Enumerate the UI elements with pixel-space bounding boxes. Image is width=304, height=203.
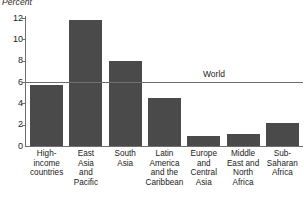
bar[interactable] [227, 134, 260, 146]
bar[interactable] [69, 20, 102, 146]
bar[interactable] [30, 85, 63, 146]
category-label-line: Saharan [260, 159, 304, 169]
category-label-line: Pacific [63, 178, 108, 188]
category-label-line: Sub- [260, 149, 304, 159]
bar-slot [145, 0, 184, 146]
world-reference-line [26, 82, 303, 83]
bar-slot [27, 0, 66, 146]
x-axis-line [25, 146, 303, 147]
category-label-line: Africa [260, 168, 304, 178]
bar[interactable] [109, 61, 142, 146]
bars-layer [0, 0, 304, 146]
x-axis-category-labels: High-incomecountriesEastAsiaandPacificSo… [0, 149, 304, 203]
x-axis-category-label: Sub-SaharanAfrica [260, 149, 304, 178]
category-label-line: and [63, 168, 108, 178]
bar[interactable] [187, 136, 220, 146]
world-reference-label: World [200, 70, 228, 79]
bar-slot [223, 0, 262, 146]
bar-slot [66, 0, 105, 146]
bar-slot [263, 0, 302, 146]
bar[interactable] [266, 123, 299, 146]
bar[interactable] [148, 98, 181, 146]
category-label-line: Africa [220, 178, 265, 188]
bar-slot [106, 0, 145, 146]
bar-chart: Percent 024681012 World High-incomecount… [0, 0, 304, 203]
